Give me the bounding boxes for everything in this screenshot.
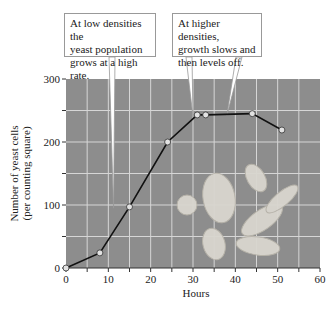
y-tick-label: 300 [44, 73, 61, 85]
y-tick-label: 200 [44, 136, 61, 148]
x-tick-label: 0 [63, 273, 69, 285]
yeast-cell [177, 195, 197, 215]
x-tick-label: 50 [272, 273, 284, 285]
x-axis-label: Hours [183, 287, 210, 299]
data-point [194, 112, 200, 118]
data-point [63, 265, 69, 271]
data-point [127, 204, 133, 210]
data-point [165, 139, 171, 145]
x-tick-label: 60 [315, 273, 327, 285]
y-tick-label: 100 [44, 199, 61, 211]
x-tick-label: 30 [188, 273, 200, 285]
data-point [97, 250, 103, 256]
callout-high-density: At higher densities, growth slows and th… [172, 13, 262, 57]
x-tick-label: 20 [145, 273, 157, 285]
x-tick-label: 40 [230, 273, 242, 285]
data-point [249, 111, 255, 117]
data-point [279, 127, 285, 133]
x-tick-label: 10 [103, 273, 115, 285]
y-tick-label: 0 [55, 262, 61, 274]
y-axis-label: Number of yeast cells [8, 125, 20, 221]
callout-low-density: At low densities the yeast population gr… [64, 13, 156, 57]
yeast-growth-chart: 01020304050600100200300HoursNumber of ye… [0, 0, 336, 314]
y-axis-label: (per counting square) [20, 126, 33, 220]
data-point [203, 112, 209, 118]
